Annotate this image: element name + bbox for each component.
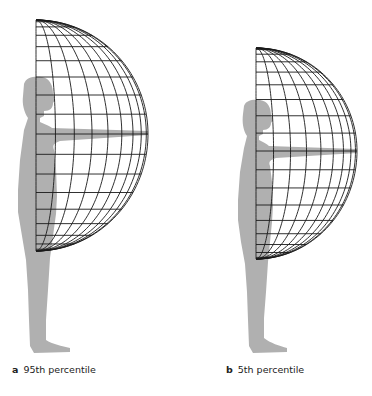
reach-envelope-diagram — [0, 0, 372, 396]
caption-a-letter: a — [12, 364, 18, 375]
caption-b: b5th percentile — [226, 364, 304, 375]
figure-a-silhouette — [18, 77, 148, 353]
caption-b-letter: b — [226, 364, 233, 375]
caption-a: a95th percentile — [12, 364, 96, 375]
caption-b-label: 5th percentile — [238, 364, 304, 375]
caption-a-label: 95th percentile — [23, 364, 95, 375]
